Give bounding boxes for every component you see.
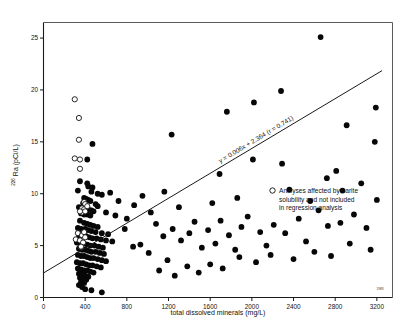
data-point-filled [253, 259, 259, 265]
data-point-filled [103, 210, 109, 216]
x-axis-title: total dissolved minerals (mg/L) [171, 309, 266, 317]
data-point-filled [373, 105, 379, 111]
data-point-filled [137, 242, 143, 248]
corner-mark: 1983 [376, 287, 383, 291]
data-point-filled [109, 239, 115, 245]
regression-equation-text: y = 0.006x + 2.364 (r = 0.741) [217, 114, 295, 165]
data-point-filled [245, 214, 251, 220]
data-point-open [83, 235, 88, 240]
data-point-filled [282, 230, 288, 236]
data-point-filled [186, 230, 192, 236]
data-point-filled [264, 243, 270, 249]
data-point-filled [130, 244, 136, 250]
data-point-open [72, 97, 77, 102]
data-point-filled [268, 252, 274, 258]
data-point-filled [89, 189, 95, 195]
data-point-filled [95, 203, 101, 209]
x-axis-ticks: 0400800120016002000240028003200 [42, 298, 385, 310]
data-point-filled [344, 122, 350, 128]
data-point-open [77, 157, 82, 162]
data-point-filled [232, 247, 238, 253]
data-point-filled [98, 265, 104, 271]
data-point-filled [217, 171, 223, 177]
data-point-filled [146, 250, 152, 256]
data-point-filled [220, 266, 226, 272]
data-point-filled [131, 202, 137, 208]
x-tick-label: 2800 [328, 303, 343, 310]
data-point-filled [338, 220, 344, 226]
data-point-filled [234, 195, 240, 201]
data-point-filled [178, 238, 184, 244]
data-point-filled [324, 175, 330, 181]
data-point-open [78, 244, 83, 249]
y-tick-label: 10 [31, 190, 39, 197]
y-axis-title: 226 Ra (pCi/L) [11, 144, 20, 186]
regression-equation-label: y = 0.006x + 2.364 (r = 0.741) [217, 114, 295, 165]
data-point-filled [271, 222, 277, 228]
x-tick-label: 800 [122, 303, 133, 310]
y-tick-label: 20 [31, 86, 39, 93]
data-point-filled [77, 178, 83, 184]
data-point-filled [160, 233, 166, 239]
legend: Analyses affected by barite solubility a… [270, 187, 359, 212]
data-point-filled [140, 193, 146, 199]
data-point-filled [99, 192, 105, 198]
data-point-filled [279, 161, 285, 167]
data-point-filled [156, 268, 162, 274]
data-point-filled [325, 223, 331, 229]
data-point-filled [91, 270, 97, 276]
y-axis-ticks: 0510152025 [31, 34, 44, 300]
data-point-filled [87, 198, 93, 204]
data-point-filled [199, 245, 205, 251]
legend-label-line-3: in regression analysis [279, 204, 343, 212]
data-point-open [76, 115, 81, 120]
data-point-filled [318, 34, 324, 40]
data-point-filled [368, 247, 374, 253]
legend-label-line-1: Analyses affected by barite [279, 187, 358, 195]
data-point-filled [311, 249, 317, 255]
data-point-filled [226, 232, 232, 238]
data-point-filled [207, 261, 213, 267]
data-point-filled [124, 216, 130, 222]
data-point-filled [328, 253, 334, 259]
data-point-filled [351, 212, 357, 218]
data-point-open [82, 230, 87, 235]
data-point-filled [99, 230, 105, 236]
data-point-filled [87, 213, 93, 219]
data-point-filled [170, 226, 176, 232]
data-point-filled [358, 180, 364, 186]
data-point-filled [296, 216, 302, 222]
svg-text:226 Ra (pCi/L): 226 Ra (pCi/L) [11, 144, 20, 186]
data-point-filled [374, 197, 380, 203]
y-tick-label: 0 [34, 294, 38, 301]
data-point-filled [364, 225, 370, 231]
y-tick-label: 5 [34, 242, 38, 249]
data-point-filled [93, 229, 99, 235]
data-point-filled [101, 251, 107, 257]
data-point-filled [347, 241, 353, 247]
data-point-filled [224, 109, 230, 115]
data-point-filled [196, 270, 202, 276]
data-point-filled [89, 287, 95, 293]
data-point-filled [250, 157, 256, 163]
data-point-filled [303, 239, 309, 245]
data-point-filled [103, 238, 109, 244]
legend-open-circle-icon [270, 188, 275, 193]
data-point-filled [239, 224, 245, 230]
data-point-filled [236, 254, 242, 260]
data-point-filled [176, 204, 182, 210]
data-point-open [76, 137, 81, 142]
data-point-filled [103, 258, 109, 264]
x-tick-label: 3200 [370, 303, 385, 310]
y-tick-label: 15 [31, 138, 39, 145]
data-point-filled [161, 189, 167, 195]
data-point-open [77, 209, 82, 214]
data-point-filled [278, 88, 284, 94]
data-point-filled [122, 226, 128, 232]
data-point-filled [257, 229, 263, 235]
data-point-open [72, 156, 77, 161]
data-point-filled [218, 218, 224, 224]
data-point-filled [75, 188, 81, 194]
data-point-filled [209, 200, 215, 206]
scatter-plot: 0400800120016002000240028003200 05101520… [0, 0, 418, 330]
